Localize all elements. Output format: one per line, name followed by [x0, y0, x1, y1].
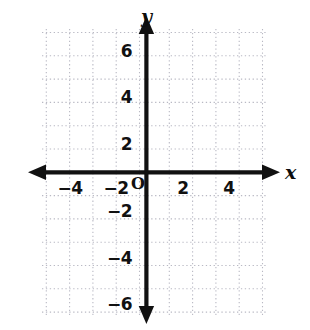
y-tick-label-minus-2: −2	[94, 203, 132, 220]
y-tick-label-6: 6	[104, 43, 132, 60]
x-tick-label-2: 2	[172, 180, 194, 197]
x-tick-label-4: 4	[218, 180, 240, 197]
y-axis	[139, 16, 154, 324]
x-axis-label: x	[285, 163, 296, 182]
grid-and-axes	[0, 0, 310, 330]
y-tick-label-minus-6: −6	[94, 296, 132, 313]
y-axis-label: y	[141, 7, 152, 26]
y-tick-label-4: 4	[104, 89, 132, 106]
origin-label: O	[131, 176, 145, 192]
y-tick-label-2: 2	[104, 136, 132, 153]
y-tick-label-minus-4: −4	[94, 250, 132, 267]
x-tick-label-minus-4: −4	[49, 180, 91, 197]
coordinate-plane-figure: 6 4 2 −2 −4 −6 −4 −2 2 4 O x y	[0, 0, 310, 330]
